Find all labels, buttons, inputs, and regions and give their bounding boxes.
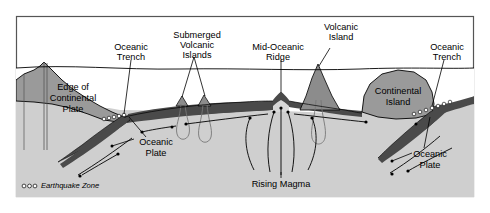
label-continental-island-line1: Continental [375, 86, 421, 96]
label-rising-magma: Rising Magma [252, 179, 312, 189]
label-oceanic-trench-right-line1: Oceanic [430, 42, 464, 52]
label-mid-oceanic-ridge-line1: Mid-Oceanic [252, 42, 304, 52]
label-volcanic-island-line1: Volcanic [324, 22, 359, 32]
label-submerged-volcanic-islands-line1: Submerged [173, 30, 221, 40]
plate-tectonics-diagram: Oceanic Trench Submerged Volcanic Island… [0, 0, 490, 213]
label-oceanic-plate-right-line2: Plate [420, 160, 441, 170]
diagram-canvas: Oceanic Trench Submerged Volcanic Island… [0, 0, 490, 213]
legend-earthquake-marker [22, 184, 37, 188]
label-submerged-volcanic-islands-line2: Volcanic [180, 40, 215, 50]
label-edge-continental-plate-line2: Continental [50, 93, 96, 103]
label-oceanic-trench-left-line2: Trench [117, 52, 145, 62]
label-oceanic-plate-left-line2: Plate [146, 148, 167, 158]
label-oceanic-trench-left-line1: Oceanic [114, 42, 148, 52]
label-edge-continental-plate-line1: Edge of [57, 82, 89, 92]
label-mid-oceanic-ridge-line2: Ridge [266, 52, 290, 62]
label-oceanic-plate-left-line1: Oceanic [139, 137, 173, 147]
label-volcanic-island-line2: Island [329, 32, 354, 42]
label-continental-island-line2: Island [386, 97, 411, 107]
label-edge-continental-plate-line3: Plate [63, 104, 84, 114]
legend-earthquake-zone-text: Earthquake Zone [41, 181, 99, 190]
label-oceanic-plate-right-line1: Oceanic [413, 149, 447, 159]
label-submerged-volcanic-islands-line3: Islands [182, 50, 212, 60]
label-oceanic-trench-right-line2: Trench [433, 52, 461, 62]
